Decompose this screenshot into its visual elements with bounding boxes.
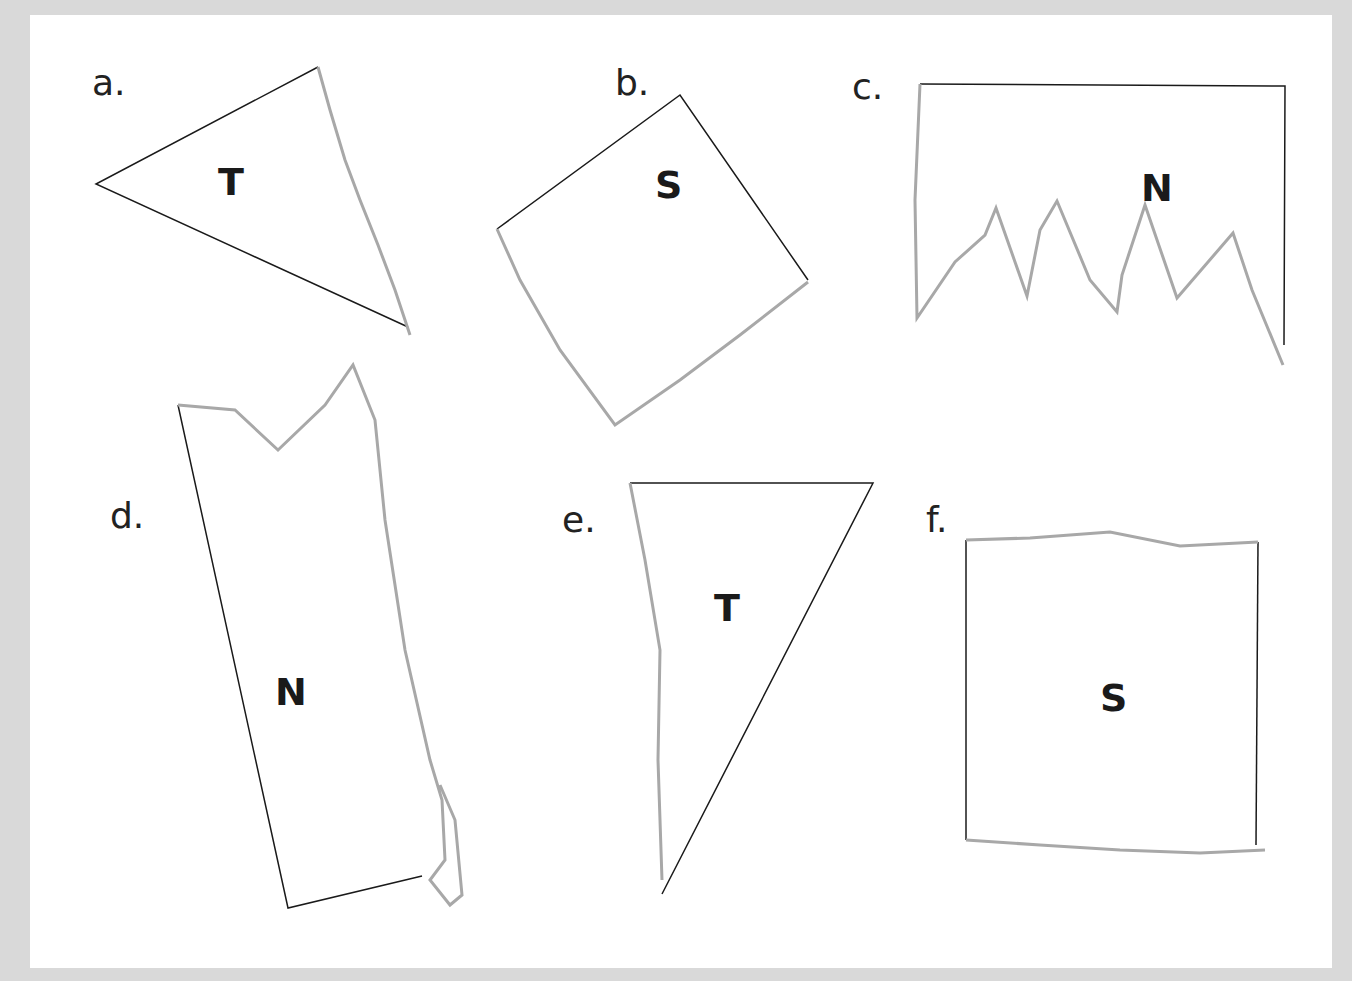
shape-e-letter: T <box>714 586 740 630</box>
shape-c-letter: N <box>1141 166 1173 210</box>
shape-f-label: f. <box>926 499 948 540</box>
shape-d-label: d. <box>110 495 144 536</box>
shape-f-letter: S <box>1100 676 1127 720</box>
shape-c-label: c. <box>852 66 883 107</box>
shape-a-letter: T <box>218 160 244 204</box>
shape-b-letter: S <box>655 163 682 207</box>
shape-b-square <box>497 95 808 425</box>
shape-d-quadrilateral <box>178 365 462 908</box>
shape-c-rectangle-jagged <box>915 84 1285 365</box>
shape-e-triangle <box>630 483 873 894</box>
shape-e-label: e. <box>562 499 596 540</box>
shape-a-label: a. <box>92 62 126 103</box>
shapes-canvas <box>0 0 1352 981</box>
shape-d-letter: N <box>275 670 307 714</box>
shape-b-label: b. <box>615 62 649 103</box>
shape-a-triangle <box>96 67 410 335</box>
